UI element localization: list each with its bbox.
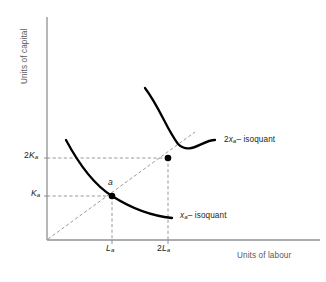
2xa-isoquant-visible bbox=[145, 88, 215, 148]
isoquant-label-2xa: 2xa– isoquant bbox=[224, 136, 275, 145]
isoquant-2xa-suffix: – isoquant bbox=[236, 135, 275, 144]
y-tick-label-2Ka: 2Ka bbox=[24, 151, 38, 161]
isoquant-plot bbox=[0, 0, 326, 282]
point-marker-a bbox=[109, 193, 116, 200]
x-axis-title: Units of labour bbox=[237, 252, 291, 261]
point-a-label: a bbox=[108, 178, 113, 187]
x-tick-2La-sub: a bbox=[167, 246, 171, 253]
y-tick-label-Ka: Ka bbox=[31, 189, 40, 199]
x-tick-label-La: La bbox=[106, 244, 114, 254]
y-axis-title: Units of capital bbox=[21, 11, 30, 101]
isoquant-figure: Units of capital Units of labour 2Ka Ka … bbox=[0, 0, 326, 282]
y-tick-2Ka-sub: a bbox=[35, 153, 39, 160]
point-marker-2a bbox=[165, 155, 172, 162]
isoquant-label-xa: xa– isoquant bbox=[180, 212, 227, 221]
y-tick-Ka-sub: a bbox=[37, 191, 41, 198]
x-tick-La-sub: a bbox=[111, 246, 115, 253]
isoquant-xa-suffix: – isoquant bbox=[188, 211, 227, 220]
x-tick-label-2La: 2La bbox=[157, 244, 170, 254]
xa-isoquant-curve bbox=[66, 140, 172, 218]
